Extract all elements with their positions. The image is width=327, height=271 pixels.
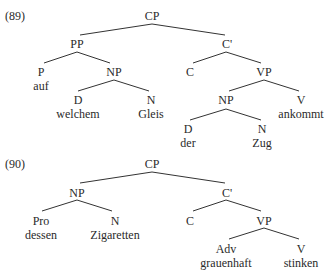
- node-c: C: [186, 215, 194, 227]
- node-np: NP: [218, 94, 233, 106]
- node-vp: VP: [256, 66, 271, 78]
- node-np: NP: [106, 66, 121, 78]
- word-zigaretten: Zigaretten: [90, 229, 139, 241]
- node-v: V: [297, 243, 306, 255]
- word-stinken: stinken: [284, 257, 319, 269]
- example-number: (89): [5, 10, 25, 22]
- node-cbar: C': [222, 38, 232, 50]
- node-d: D: [74, 94, 83, 106]
- node-v: V: [297, 94, 306, 106]
- node-cp: CP: [145, 10, 160, 22]
- word-ankommt: ankommt: [278, 108, 323, 120]
- word-dessen: dessen: [25, 229, 57, 241]
- node-np: NP: [69, 187, 84, 199]
- node-cbar: C': [222, 187, 232, 199]
- node-c: C: [186, 66, 194, 78]
- word-zug: Zug: [252, 137, 271, 149]
- word-auf: auf: [33, 80, 48, 92]
- node-n: N: [147, 94, 156, 106]
- word-gleis: Gleis: [138, 108, 163, 120]
- node-pp: PP: [70, 38, 83, 50]
- node-adv: Adv: [216, 243, 237, 255]
- node-pro: Pro: [33, 215, 50, 227]
- example-number: (90): [5, 158, 25, 170]
- word-welchem: welchem: [56, 108, 99, 120]
- node-n: N: [258, 123, 267, 135]
- word-grauenhaft: grauenhaft: [200, 257, 251, 269]
- node-d: D: [184, 123, 193, 135]
- node-cp: CP: [145, 158, 160, 170]
- word-der: der: [180, 137, 195, 149]
- node-n: N: [111, 215, 120, 227]
- node-p: P: [38, 66, 45, 78]
- node-vp: VP: [256, 215, 271, 227]
